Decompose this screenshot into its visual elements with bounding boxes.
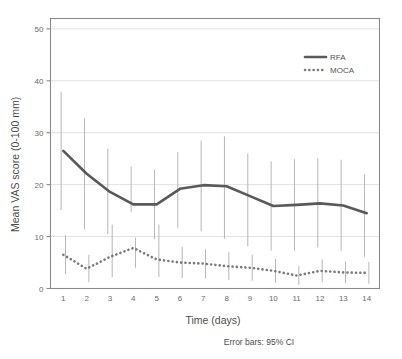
x-tick-label-7: 7 (201, 294, 206, 303)
x-tick-label-1: 1 (61, 294, 66, 303)
x-tick-label-10: 10 (269, 294, 278, 303)
x-tick-label-12: 12 (316, 294, 325, 303)
chart-figure: 01020304050 1234567891011121314 RFAMOCA … (0, 0, 402, 359)
x-axis-title: Time (days) (185, 314, 240, 326)
y-tick-label-50: 50 (35, 25, 44, 34)
legend-label-moca: MOCA (330, 66, 355, 75)
y-tick-label-30: 30 (35, 129, 44, 138)
legend-label-rfa: RFA (330, 53, 346, 62)
y-tick-label-20: 20 (35, 181, 44, 190)
y-tick-label-40: 40 (35, 77, 44, 86)
x-tick-label-8: 8 (224, 294, 229, 303)
x-tick-label-9: 9 (248, 294, 253, 303)
y-tick-label-10: 10 (35, 233, 44, 242)
x-tick-label-13: 13 (339, 294, 348, 303)
x-tick-label-11: 11 (293, 294, 302, 303)
x-tick-label-6: 6 (178, 294, 183, 303)
x-tick-label-14: 14 (362, 294, 371, 303)
x-tick-label-4: 4 (131, 294, 136, 303)
y-axis-title: Mean VAS score (0-100 mm) (9, 97, 21, 232)
x-tick-label-2: 2 (84, 294, 89, 303)
vas-score-line-chart: 01020304050 1234567891011121314 RFAMOCA … (0, 0, 402, 359)
x-tick-label-3: 3 (108, 294, 113, 303)
y-tick-label-0: 0 (39, 285, 44, 294)
x-tick-label-5: 5 (154, 294, 159, 303)
chart-caption: Error bars: 95% CI (224, 337, 294, 347)
